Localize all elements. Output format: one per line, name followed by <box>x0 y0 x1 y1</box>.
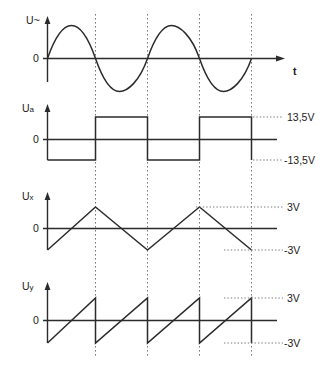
panel3-y-axis-arrow <box>45 192 51 200</box>
panel4-y-axis-label-sub: y <box>30 283 34 292</box>
panel2-low-value-label: -13,5V <box>284 155 315 166</box>
panel2-y-axis-label: Ua <box>22 103 34 114</box>
panel2-trace-square <box>48 117 252 160</box>
time-axis-label: t <box>293 66 297 77</box>
panel-ux-triangle <box>43 192 283 250</box>
panel2-y-axis-label-main: U <box>22 102 30 114</box>
panel1-y-axis-arrow <box>45 16 51 24</box>
panel4-y-axis-label: Uy <box>22 281 34 292</box>
panel4-y-axis-arrow <box>45 282 51 290</box>
panel3-y-axis-label-main: U <box>22 190 30 202</box>
gridlines <box>96 14 252 356</box>
panel3-low-value-label: -3V <box>284 245 300 256</box>
panel4-low-value-label: -3V <box>284 338 300 349</box>
panel3-y-axis-label: Ux <box>22 191 34 202</box>
panel2-zero-label: 0 <box>33 134 39 145</box>
panel1-y-axis-label-sub: ~ <box>34 14 40 26</box>
panel4-zero-label: 0 <box>33 315 39 326</box>
panel1-x-axis-arrow <box>276 55 285 61</box>
panel2-y-axis-label-sub: a <box>30 105 34 114</box>
panel4-y-axis-label-main: U <box>22 280 30 292</box>
panel3-high-value-label: 3V <box>287 202 300 213</box>
panel1-zero-label: 0 <box>33 53 39 64</box>
panel4-high-value-label: 3V <box>287 293 300 304</box>
panel1-y-axis-label-main: U <box>26 14 34 26</box>
panel3-y-axis-label-sub: x <box>30 193 34 202</box>
panel-ua-square <box>43 104 283 160</box>
panel2-y-axis-arrow <box>45 104 51 112</box>
waveform-figure <box>0 0 329 365</box>
panel1-y-axis-label: U~ <box>26 15 40 26</box>
panel2-high-value-label: 13,5V <box>287 112 314 123</box>
panel-uy-sawtooth <box>43 282 283 343</box>
panel-u-sine <box>43 16 285 92</box>
panel3-zero-label: 0 <box>33 223 39 234</box>
